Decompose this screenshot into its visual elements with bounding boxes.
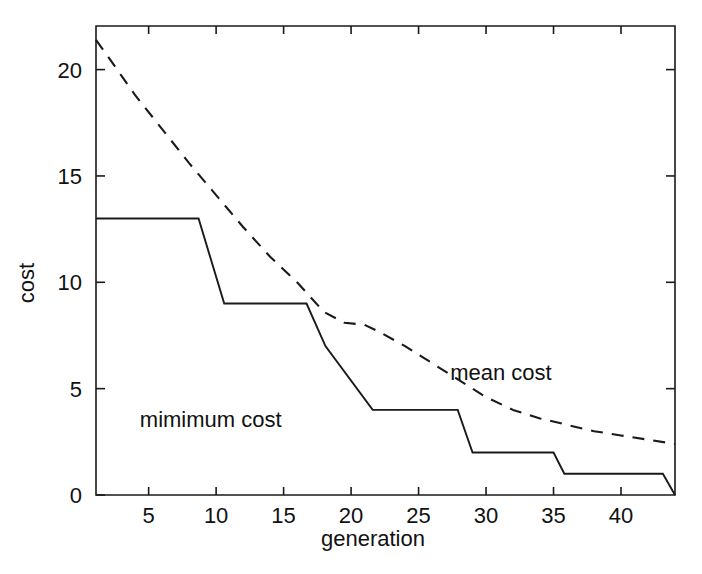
y-tick-label: 20	[58, 58, 82, 83]
y-tick-label: 10	[58, 270, 82, 295]
y-tick-label: 0	[70, 483, 82, 508]
x-tick-label: 10	[204, 503, 228, 528]
x-tick-label: 40	[609, 503, 633, 528]
chart-figure: 510152025303540 05101520 mimimum cost me…	[0, 0, 702, 574]
y-tick-label: 5	[70, 377, 82, 402]
x-tick-label: 15	[271, 503, 295, 528]
x-tick-label: 25	[406, 503, 430, 528]
minimum-cost-annotation: mimimum cost	[140, 407, 282, 432]
x-tick-label: 5	[143, 503, 155, 528]
mean-cost-annotation: mean cost	[450, 360, 552, 385]
cost-vs-generation-chart: 510152025303540 05101520 mimimum cost me…	[0, 0, 702, 574]
x-axis-title: generation	[321, 526, 425, 551]
x-tick-label: 20	[339, 503, 363, 528]
x-tick-label: 30	[474, 503, 498, 528]
y-tick-label: 15	[58, 164, 82, 189]
y-axis-title: cost	[14, 263, 39, 303]
x-tick-label: 35	[541, 503, 565, 528]
